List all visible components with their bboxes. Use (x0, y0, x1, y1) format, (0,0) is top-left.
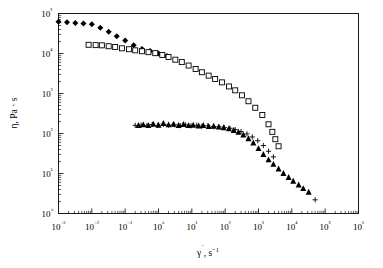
tick-label: 10³ (253, 220, 264, 232)
marker-triangle-filled (270, 161, 276, 167)
marker-square-open (113, 45, 118, 50)
tick-label: 10⁵ (320, 220, 331, 232)
tick-label: 10⁵ (41, 7, 52, 19)
marker-square-open (246, 99, 251, 104)
marker-square-open (193, 66, 198, 71)
marker-square-open (219, 80, 224, 85)
marker-square-open (160, 52, 165, 57)
marker-square-open (266, 122, 271, 127)
tick-label: 10⁻³ (52, 220, 66, 232)
tick-label: 10¹ (42, 167, 53, 179)
marker-triangle-filled (296, 181, 302, 187)
marker-square-open (179, 60, 184, 65)
marker-triangle-filled (156, 122, 162, 128)
marker-square-open (260, 113, 265, 118)
marker-triangle-filled (200, 122, 206, 128)
marker-triangle-filled (286, 174, 292, 180)
figure-container: 10⁻³10⁻²10⁻¹10⁰10¹10²10³10⁴10⁵10⁶ 10⁰10¹… (0, 0, 383, 268)
marker-square-open (166, 54, 171, 59)
marker-square-open (126, 47, 131, 52)
marker-square-open (106, 44, 111, 49)
y-axis-label: η, Pa · s (9, 97, 19, 128)
series-open-square-series (86, 42, 281, 148)
tick-label: 10² (42, 127, 53, 139)
marker-square-open (133, 48, 138, 53)
tick-label: 10² (220, 220, 231, 232)
marker-triangle-filled (290, 178, 296, 184)
marker-square-open (119, 46, 124, 51)
marker-triangle-filled (300, 185, 306, 191)
marker-square-open (226, 84, 231, 89)
x-axis-tick-labels: 10⁻³10⁻²10⁻¹10⁰10¹10²10³10⁴10⁵10⁶ (52, 220, 365, 232)
marker-diamond-filled (64, 19, 70, 25)
marker-square-open (146, 50, 151, 55)
marker-square-open (276, 144, 281, 149)
marker-square-open (140, 49, 145, 54)
marker-triangle-filled (260, 151, 266, 157)
x-axis-ticks (59, 209, 359, 214)
marker-square-open (93, 43, 98, 48)
marker-square-open (153, 51, 158, 56)
marker-diamond-filled (114, 33, 120, 39)
marker-triangle-filled (306, 189, 312, 195)
x-axis-label: γ˙, s−1 (196, 244, 219, 258)
marker-square-open (273, 137, 278, 142)
marker-plus (250, 134, 255, 139)
marker-plus (271, 154, 276, 159)
marker-square-open (99, 43, 104, 48)
tick-label: 10⁰ (153, 220, 165, 232)
marker-diamond-filled (80, 21, 86, 27)
marker-square-open (86, 42, 91, 47)
marker-square-open (213, 77, 218, 82)
tick-label: 10⁶ (353, 220, 364, 232)
marker-square-open (253, 105, 258, 110)
marker-diamond-filled (122, 38, 128, 44)
marker-diamond-filled (72, 20, 78, 26)
tick-label: 10⁴ (41, 47, 52, 59)
series-plus-series (133, 122, 318, 203)
marker-plus (261, 143, 266, 148)
marker-square-open (270, 129, 275, 134)
tick-label: 10⁻¹ (118, 220, 132, 232)
marker-plus (161, 122, 166, 127)
marker-square-open (233, 88, 238, 93)
marker-triangle-filled (280, 170, 286, 176)
tick-label: 10⁻² (85, 220, 99, 232)
y-axis-tick-labels: 10⁰10¹10²10³10⁴10⁵ (41, 7, 53, 219)
marker-plus (313, 197, 318, 202)
marker-triangle-filled (170, 121, 176, 127)
log-log-scatter-plot: 10⁻³10⁻²10⁻¹10⁰10¹10²10³10⁴10⁵10⁶ 10⁰10¹… (0, 0, 383, 268)
series-filled-triangle-series (135, 120, 311, 195)
tick-label: 10⁴ (286, 220, 297, 232)
marker-square-open (240, 93, 245, 98)
marker-triangle-filled (256, 145, 262, 151)
marker-plus (255, 138, 260, 143)
marker-square-open (206, 73, 211, 78)
data-series-layer (56, 19, 318, 203)
tick-label: 10³ (42, 87, 53, 99)
marker-plus (266, 149, 271, 154)
marker-square-open (199, 70, 204, 75)
tick-label: 10¹ (186, 220, 197, 232)
marker-diamond-filled (97, 25, 103, 31)
marker-triangle-filled (266, 156, 272, 162)
marker-square-open (186, 63, 191, 68)
tick-label: 10⁰ (42, 207, 54, 219)
marker-triangle-filled (245, 135, 251, 141)
marker-triangle-filled (276, 166, 282, 172)
marker-diamond-filled (106, 29, 112, 35)
y-axis-ticks (59, 14, 64, 214)
marker-square-open (173, 57, 178, 62)
marker-diamond-filled (89, 21, 95, 27)
